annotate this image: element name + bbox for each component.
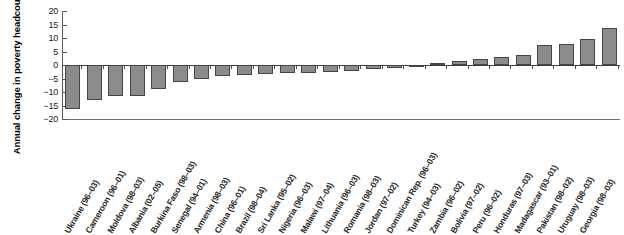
bar <box>323 65 338 72</box>
x-tick-mark <box>167 65 168 69</box>
x-axis-tick-labels: Ukraine (96–03)Cameroon (96–01)Moldova (… <box>62 121 624 235</box>
y-axis-tick-labels: 20151050−5−10−15−20 <box>34 0 62 128</box>
x-tick-mark <box>382 65 383 69</box>
x-tick-mark <box>575 65 576 69</box>
y-tick-label: −15 <box>43 101 58 111</box>
poverty-headcount-bar-chart: Annual change in poverty headcount (%) 2… <box>0 0 624 235</box>
x-tick-mark <box>532 65 533 69</box>
x-tick-mark <box>489 65 490 69</box>
bar <box>473 59 488 65</box>
bar <box>452 61 467 65</box>
x-tick-mark <box>231 65 232 69</box>
bar <box>194 65 209 79</box>
x-tick-mark <box>403 65 404 69</box>
bar <box>409 65 424 67</box>
x-tick-mark <box>274 65 275 69</box>
x-tick-mark <box>596 65 597 69</box>
plot-area <box>62 11 620 119</box>
bar <box>65 65 80 109</box>
y-tick-label: 15 <box>48 20 58 30</box>
bar <box>173 65 188 82</box>
x-tick-mark <box>360 65 361 69</box>
x-tick-mark <box>210 65 211 69</box>
bar <box>366 65 381 69</box>
bar <box>387 65 402 68</box>
bar <box>130 65 145 96</box>
x-tick-mark <box>81 65 82 69</box>
bar <box>559 44 574 65</box>
x-tick-mark <box>317 65 318 69</box>
bar <box>344 65 359 71</box>
y-tick-label: −10 <box>43 87 58 97</box>
y-tick-mark <box>63 25 67 26</box>
x-tick-mark <box>103 65 104 69</box>
x-tick-mark <box>339 65 340 69</box>
bottom-axis-line <box>62 119 620 120</box>
bar <box>108 65 123 96</box>
y-tick-mark <box>63 38 67 39</box>
y-tick-label: −20 <box>43 114 58 124</box>
bar <box>280 65 295 73</box>
y-tick-label: −5 <box>48 74 58 84</box>
y-tick-mark <box>63 11 67 12</box>
y-axis-title: Annual change in poverty headcount (%) <box>11 0 23 154</box>
bar <box>537 45 552 65</box>
x-tick-mark <box>468 65 469 69</box>
bar <box>494 57 509 65</box>
y-tick-label: 0 <box>53 60 58 70</box>
y-axis-title-container: Annual change in poverty headcount (%) <box>0 0 34 128</box>
x-tick-mark <box>618 65 619 69</box>
y-tick-label: 5 <box>53 47 58 57</box>
bar <box>151 65 166 89</box>
bar <box>516 55 531 65</box>
y-tick-mark <box>63 119 67 120</box>
bar <box>301 65 316 73</box>
x-tick-mark <box>425 65 426 69</box>
x-tick-mark <box>510 65 511 69</box>
bar <box>430 63 445 65</box>
x-tick-mark <box>189 65 190 69</box>
x-tick-mark <box>446 65 447 69</box>
y-tick-label: 20 <box>48 6 58 16</box>
x-tick-mark <box>553 65 554 69</box>
bar <box>215 65 230 76</box>
x-tick-mark <box>146 65 147 69</box>
bar <box>87 65 102 100</box>
y-tick-label: 10 <box>48 33 58 43</box>
x-tick-mark <box>253 65 254 69</box>
x-tick-mark <box>296 65 297 69</box>
bar <box>580 39 595 65</box>
bar <box>258 65 273 74</box>
x-tick-mark <box>124 65 125 69</box>
y-tick-mark <box>63 52 67 53</box>
bar <box>602 28 617 65</box>
bar <box>237 65 252 75</box>
